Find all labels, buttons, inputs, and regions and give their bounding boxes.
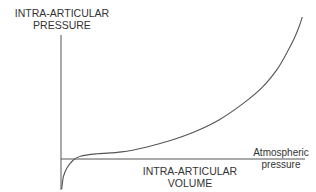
atmospheric-label-line-1: Atmospheric <box>245 147 316 159</box>
y-axis-label-line-1: INTRA-ARTICULAR <box>12 7 112 19</box>
x-axis-label: INTRA-ARTICULAR VOLUME <box>140 165 240 189</box>
y-axis-label: INTRA-ARTICULAR PRESSURE <box>12 7 112 31</box>
atmospheric-label-line-2: pressure <box>245 159 316 171</box>
x-axis-label-line-1: INTRA-ARTICULAR <box>140 165 240 177</box>
y-axis-label-line-2: PRESSURE <box>12 19 112 31</box>
x-axis-label-line-2: VOLUME <box>140 177 240 189</box>
atmospheric-pressure-label: Atmospheric pressure <box>245 147 316 171</box>
